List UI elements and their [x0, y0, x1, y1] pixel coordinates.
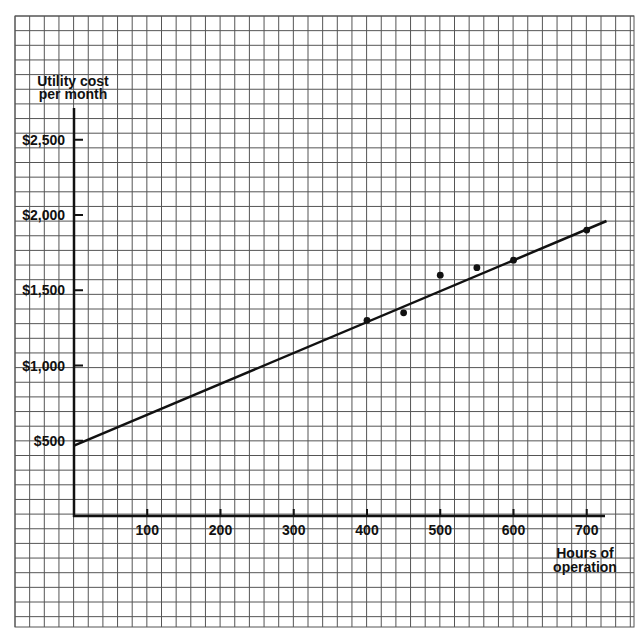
y-tick-label: $2,000	[22, 207, 65, 223]
x-axis-label-line-2: operation	[553, 559, 617, 575]
x-tick-label: 100	[136, 522, 160, 538]
y-axis-label-line-2: per month	[39, 86, 107, 102]
x-tick-label: 600	[502, 522, 526, 538]
data-point	[510, 257, 517, 264]
x-tick-label: 500	[429, 522, 453, 538]
x-tick-label: 700	[575, 522, 599, 538]
data-point	[400, 309, 407, 316]
data-point	[473, 264, 480, 271]
chart: 100200300400500600700 $500$1,000$1,500$2…	[0, 0, 643, 640]
y-tick-label: $1,500	[22, 282, 65, 298]
y-axis-label: Utility cost per month	[37, 73, 109, 102]
x-tick-label: 400	[355, 522, 379, 538]
y-tick-label: $1,000	[22, 358, 65, 374]
y-tick-label: $500	[34, 433, 65, 449]
axes: 100200300400500600700 $500$1,000$1,500$2…	[22, 108, 605, 538]
y-tick-label: $2,500	[22, 132, 65, 148]
graph-paper-grid	[15, 16, 634, 627]
data-point	[437, 272, 444, 279]
data-point	[583, 227, 590, 234]
x-axis-label: Hours of operation	[553, 545, 617, 575]
x-tick-label: 200	[209, 522, 233, 538]
x-tick-label: 300	[282, 522, 306, 538]
data-point	[364, 317, 371, 324]
